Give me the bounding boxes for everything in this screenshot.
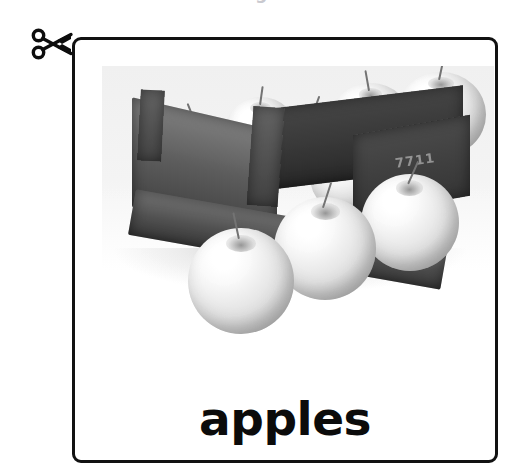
card-image-frame: 7711 [102,66,494,351]
apple-dimple [311,203,340,219]
card-label: apples [75,395,495,442]
crate-mid-post [246,106,284,207]
apples-in-wooden-crate-photo: 7711 [102,66,494,351]
apple-dimple [226,235,256,252]
flashcard[interactable]: 7711 apples [72,37,498,463]
page-top-cutoff-text: g [0,0,523,8]
scissors-icon [30,27,74,61]
apple-front-left [188,228,294,333]
crate-left-post [137,89,165,161]
apple-front-right [361,174,459,271]
